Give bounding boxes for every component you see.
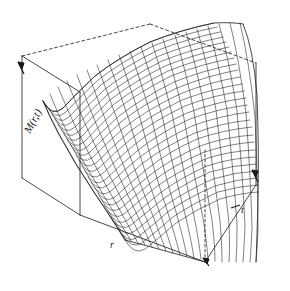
frame-top-left (22, 56, 80, 92)
plot-canvas: M(r,t) r t (0, 0, 290, 291)
hidden-back-edge-top (22, 24, 150, 56)
mesh-lines-constant-r (43, 23, 258, 262)
surface-silhouette (43, 23, 258, 262)
z-axis-label: M(r,t) (21, 107, 45, 137)
frame-bottom-front (80, 215, 205, 262)
r-axis-arrowhead (203, 258, 209, 264)
y-axis-label: t (241, 204, 244, 215)
z-axis-arrowhead (18, 62, 24, 69)
frame-bottom-left (22, 178, 80, 215)
surface-wireframe-mesh (43, 23, 258, 262)
mesh-lines-constant-t (43, 23, 258, 251)
hidden-back-edge-top-right (150, 24, 256, 63)
surface-plot-figure: M(r,t) r t (0, 0, 290, 291)
axis-labels: M(r,t) r t (21, 107, 244, 250)
x-axis-label: r (110, 239, 114, 250)
